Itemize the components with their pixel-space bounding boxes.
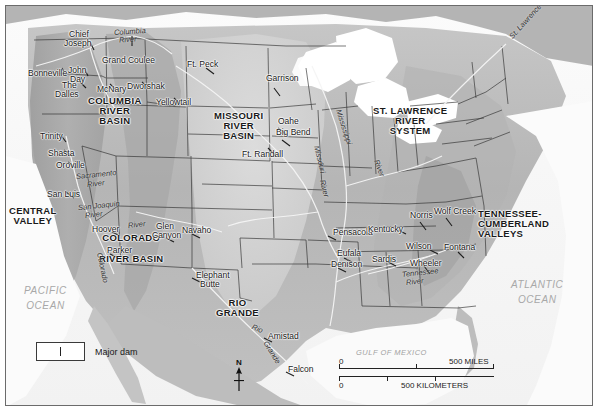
ocean-line: OCEAN: [511, 295, 563, 306]
dam-label-wolf-creek: Wolf Creek: [434, 207, 476, 216]
basin-line: BASIN: [214, 131, 263, 141]
dam-label-pensacola: Pensacola: [333, 228, 373, 237]
ocean-line: OCEAN: [24, 301, 67, 312]
dam-label-amistad: Amistad: [268, 332, 299, 341]
basin-label-st-lawrence-river-system: ST. LAWRENCE RIVER SYSTEM: [373, 106, 447, 136]
dam-label-wilson: Wilson: [406, 242, 432, 251]
major-dam-icon: [60, 347, 61, 356]
map-frame: COLUMBIA RIVER BASIN MISSOURI RIVER BASI…: [5, 5, 593, 406]
dam-label-hoover: Hoover: [92, 225, 119, 234]
scale-miles-row: 0 500 MILES: [339, 358, 519, 374]
scale-km-line: [339, 376, 494, 377]
basin-line: SYSTEM: [373, 126, 447, 136]
dam-label-sardis: Sardis: [372, 255, 396, 264]
dam-label-norris: Norris: [410, 211, 433, 220]
dam-label-joseph: Joseph: [64, 39, 91, 48]
dam-label-ft-peck: Ft. Peck: [187, 60, 218, 69]
dam-label-navaho: Navaho: [182, 226, 211, 235]
dam-label-dalles: Dalles: [55, 90, 79, 99]
river-label-sacramento-river: River: [87, 179, 105, 189]
north-arrow: N: [231, 358, 247, 392]
north-arrow-icon: [231, 367, 247, 393]
river-label-columbia-river: River: [119, 35, 137, 44]
scale-bar: 0 500 MILES 0 500 KILOMETERS: [339, 358, 519, 389]
dam-label-oahe: Oahe: [278, 117, 299, 126]
legend: Major dam: [36, 342, 138, 361]
basin-line: VALLEY: [9, 216, 57, 226]
dam-label-ft-randall: Ft. Randall: [242, 150, 283, 159]
dam-label-garrison: Garrison: [266, 74, 299, 83]
dam-label-shasta: Shasta: [48, 149, 74, 158]
ocean-label-pacific-ocean: PACIFIC OCEAN: [24, 286, 67, 311]
river-label-tennessee-river: River: [406, 277, 424, 287]
scale-tick: [416, 364, 417, 369]
scale-miles-max-value: 500: [449, 357, 462, 366]
dam-label-fontana: Fontana: [444, 243, 475, 252]
ocean-label-atlantic-ocean: ATLANTIC OCEAN: [511, 280, 563, 305]
dam-label-eufala: Eufala: [337, 249, 361, 258]
scale-tick: [339, 364, 340, 369]
basin-line: VALLEYS: [478, 229, 549, 239]
scale-km-unit: KILOMETERS: [417, 381, 469, 390]
basin-label-missouri-river-basin: MISSOURI RIVER BASIN: [214, 111, 263, 141]
basin-label-tennessee-cumberland-valleys: TENNESSEE- CUMBERLAND VALLEYS: [478, 209, 549, 239]
scale-tick: [493, 364, 494, 369]
basin-label-central-valley: CENTRAL VALLEY: [9, 206, 57, 226]
dam-label-trinity: Trinity: [40, 132, 63, 141]
scale-km-zero: 0: [339, 381, 343, 390]
legend-label: Major dam: [95, 347, 138, 357]
river-label-san-juan-river: River: [128, 220, 146, 230]
north-letter: N: [231, 358, 247, 367]
scale-tick: [387, 376, 388, 381]
dam-label-oroville: Oroville: [56, 161, 85, 170]
scale-km-max: 500 KILOMETERS: [401, 381, 468, 390]
basin-line: GRANDE: [216, 308, 259, 318]
ocean-line: ATLANTIC: [511, 280, 563, 291]
basin-label-rio-grande: RIO GRANDE: [216, 298, 259, 318]
dam-label-bonneville: Bonneville: [28, 69, 67, 78]
scale-miles-unit: MILES: [465, 357, 489, 366]
dam-label-canyon: Canyon: [152, 231, 181, 240]
dam-label-yellowtail: Yellowtail: [156, 98, 191, 107]
dam-label-big-bend: Big Bend: [276, 128, 311, 137]
legend-dam-symbol-box: [36, 342, 85, 361]
dam-label-san-luis: San Luis: [47, 190, 80, 199]
map-root: COLUMBIA RIVER BASIN MISSOURI RIVER BASI…: [0, 0, 599, 413]
dam-label-denison: Denison: [331, 260, 362, 269]
basin-label-columbia-river-basin: COLUMBIA RIVER BASIN: [88, 96, 142, 126]
basin-line: RIVER BASIN: [99, 254, 164, 264]
dam-label-grand-coulee: Grand Coulee: [102, 56, 155, 65]
scale-kilometers-row: 0 500 KILOMETERS: [339, 373, 519, 389]
dam-label-dworshak: Dworshak: [127, 82, 165, 91]
basin-line: BASIN: [88, 116, 142, 126]
ocean-line: PACIFIC: [24, 286, 67, 297]
dam-label-parker: Parker: [107, 246, 132, 255]
dam-label-falcon: Falcon: [288, 365, 314, 374]
dam-label-kentucky: Kentucky: [368, 225, 403, 234]
dam-label-mcnary: McNary: [97, 85, 126, 94]
dam-label-butte: Butte: [200, 280, 220, 289]
gulf-of-mexico-label: GULF OF MEXICO: [356, 349, 427, 357]
scale-km-max-value: 500: [401, 381, 414, 390]
scale-miles-max: 500 MILES: [449, 357, 489, 366]
river-label-san-joaquin-river: River: [85, 210, 103, 220]
